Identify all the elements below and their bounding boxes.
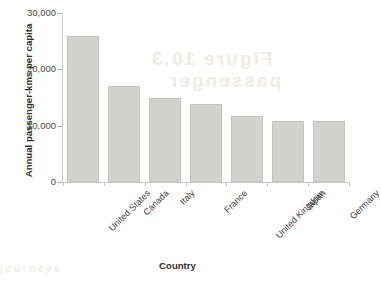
x-axis-title: Country bbox=[0, 260, 355, 271]
y-axis-tick-label: 30,000 bbox=[27, 8, 56, 18]
y-axis-line bbox=[62, 13, 63, 183]
x-axis-tick bbox=[226, 182, 227, 186]
x-axis-category-label: Germany bbox=[347, 188, 380, 221]
bar bbox=[67, 36, 99, 182]
y-axis-tick bbox=[57, 182, 62, 183]
y-axis-tick-label: 0 bbox=[51, 177, 56, 187]
x-axis-category-label: Italy bbox=[178, 188, 197, 207]
bar bbox=[149, 98, 181, 183]
bar bbox=[231, 116, 263, 182]
y-axis-tick bbox=[57, 126, 62, 127]
bar bbox=[272, 121, 304, 182]
x-axis-tick bbox=[63, 182, 64, 186]
bar bbox=[313, 121, 345, 182]
x-axis-tick bbox=[104, 182, 105, 186]
x-axis-category-label: France bbox=[222, 188, 249, 215]
x-axis-category-label: Japan bbox=[303, 188, 327, 212]
x-axis-tick bbox=[145, 182, 146, 186]
bar bbox=[190, 104, 222, 182]
x-axis-tick bbox=[308, 182, 309, 186]
x-axis-tick bbox=[267, 182, 268, 186]
x-axis-tick bbox=[349, 182, 350, 186]
x-axis-tick bbox=[186, 182, 187, 186]
y-axis-tick bbox=[57, 13, 62, 14]
bar bbox=[108, 86, 140, 182]
x-axis-line bbox=[62, 182, 349, 183]
y-axis-title: Annual passenger-kms per capita bbox=[23, 21, 34, 181]
y-axis-tick bbox=[57, 69, 62, 70]
